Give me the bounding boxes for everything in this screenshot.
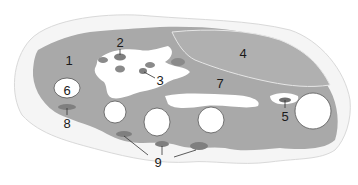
label-2: 2 xyxy=(116,35,123,50)
label-9: 9 xyxy=(154,155,161,170)
void-right xyxy=(198,107,224,133)
label-1: 1 xyxy=(65,53,72,68)
void-5-big xyxy=(295,93,331,129)
cross-section-diagram: 1 2 3 4 5 6 7 8 9 xyxy=(0,0,358,185)
label-5: 5 xyxy=(281,109,288,124)
void-left xyxy=(104,101,126,123)
spot-a xyxy=(98,57,108,63)
label-7: 7 xyxy=(216,76,223,91)
spot-c xyxy=(145,62,155,68)
spot-b xyxy=(115,66,125,73)
label-6: 6 xyxy=(63,83,70,98)
struct-9c xyxy=(190,142,208,150)
void-mid xyxy=(144,108,170,136)
label-8: 8 xyxy=(63,116,70,131)
label-4: 4 xyxy=(239,46,246,61)
spot-d xyxy=(171,58,185,66)
label-3: 3 xyxy=(156,73,163,88)
